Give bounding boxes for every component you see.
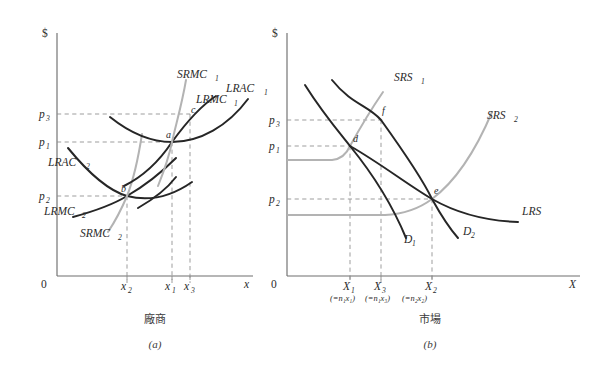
label-lrac1-sub: 1	[264, 88, 268, 97]
panel-b-xtick-X1-base: X	[342, 280, 351, 292]
panel-a-ytick-p2: p 2	[38, 190, 50, 205]
point-label-b: b	[121, 183, 126, 194]
panel-b-ytick-p3-base: p	[268, 114, 275, 127]
label-srmc1: SRMC 1	[177, 68, 219, 83]
panel-b-x-axis-label: X	[568, 278, 577, 290]
point-label-d: d	[353, 133, 359, 144]
label-srs2-sub: 2	[514, 115, 518, 124]
curve-lrac1	[110, 99, 248, 142]
panel-b-xtick-X2-paren: (=n₂x₂)	[402, 294, 427, 303]
label-d1-sub: 1	[412, 239, 416, 248]
panel-a-caption-label: (a)	[105, 338, 205, 350]
panel-b-ytick-p1: p 1	[268, 140, 280, 155]
label-srs1-sub: 1	[421, 77, 425, 86]
label-lrmc1-sub: 1	[234, 99, 238, 108]
panel-b-xtick-X1: X 1 (=n₁x₁)	[330, 280, 355, 303]
panel-a-ytick-p3: p 3	[38, 108, 50, 123]
label-lrac1: LRAC 1	[225, 82, 268, 97]
panel-b-ytick-p3-sub: 3	[275, 120, 280, 129]
label-srmc1-base: SRMC	[177, 68, 207, 80]
curve-srs2	[288, 112, 492, 215]
label-d2-sub: 2	[471, 231, 475, 240]
panel-a-group: $ 0 x p 3 p 1 p 2 x 2	[38, 27, 268, 295]
label-d2: D 2	[462, 225, 475, 240]
panel-a-xtick-x2-sub: 2	[128, 286, 132, 295]
label-lrmc1-base: LRMC	[195, 93, 227, 105]
label-d1: D 1	[403, 233, 416, 248]
panel-a-ytick-p2-base: p	[38, 190, 45, 203]
point-label-a: a	[166, 129, 171, 140]
label-lrs: LRS	[521, 205, 541, 217]
label-srs1: SRS 1	[394, 71, 425, 86]
panel-a-ytick-p1-sub: 1	[46, 142, 50, 151]
panel-a-xtick-x2: x 2	[120, 280, 132, 295]
curve-srs1	[288, 92, 383, 160]
panel-a-ytick-p3-sub: 3	[45, 114, 50, 123]
panel-b-xtick-X2-sub: 2	[433, 286, 437, 295]
panel-b-ytick-p1-base: p	[268, 140, 275, 153]
label-srs2: SRS 2	[487, 109, 518, 124]
panel-a-ytick-p2-sub: 2	[46, 196, 50, 205]
label-lrmc1: LRMC 1	[195, 93, 238, 108]
label-srs1-base: SRS	[394, 71, 413, 83]
label-lrac1-base: LRAC	[225, 82, 254, 94]
panel-b-caption-chinese: 市場	[380, 310, 480, 326]
panel-b-caption-label: (b)	[380, 338, 480, 350]
curve-lrs	[350, 146, 518, 222]
panel-a-caption-chinese: 廠商	[105, 310, 205, 326]
panel-a-x-axis-label: x	[243, 278, 250, 290]
panel-b-xtick-X2: X 2 (=n₂x₂)	[402, 280, 437, 303]
label-srs2-base: SRS	[487, 109, 506, 121]
point-label-c: c	[191, 104, 196, 115]
panel-a-origin-label: 0	[41, 278, 47, 290]
panel-a-ytick-p3-base: p	[38, 108, 45, 121]
panel-a-y-axis-label: $	[42, 27, 48, 39]
label-srmc2-base: SRMC	[80, 227, 110, 239]
panel-b-y-axis-label: $	[272, 27, 278, 39]
panel-b-xtick-X3-base: X	[373, 280, 382, 292]
label-srmc2: SRMC 2	[80, 227, 122, 242]
economics-figure-svg: $ 0 x p 3 p 1 p 2 x 2	[0, 0, 597, 365]
panel-b-xtick-X3-paren: (=n₁x₃)	[365, 294, 390, 303]
curve-aux-sr-branch	[138, 177, 176, 208]
point-label-e: e	[434, 185, 439, 196]
panel-b-ytick-p2: p 2	[268, 193, 280, 208]
panel-a-xtick-x3-sub: 3	[190, 286, 195, 295]
label-lrmc2-sub: 2	[82, 211, 86, 220]
panel-b-xtick-X2-base: X	[424, 280, 433, 292]
panel-b-ytick-p2-sub: 2	[276, 199, 280, 208]
panel-a-xtick-x2-base: x	[120, 280, 127, 292]
label-lrmc2: LRMC 2	[43, 205, 86, 220]
panel-a-xtick-x1-sub: 1	[172, 286, 176, 295]
panel-a-xtick-x1-base: x	[164, 280, 171, 292]
panel-a-xtick-x3: x 3	[183, 280, 195, 295]
panel-a-xtick-x3-base: x	[183, 280, 190, 292]
figure-root: $ 0 x p 3 p 1 p 2 x 2	[0, 0, 597, 365]
panel-b-ytick-p2-base: p	[268, 193, 275, 206]
panel-a-xtick-x1: x 1	[164, 280, 176, 295]
label-srmc2-sub: 2	[118, 233, 122, 242]
label-lrac2: LRAC 2	[47, 156, 90, 171]
label-lrmc2-base: LRMC	[43, 205, 75, 217]
point-label-f: f	[382, 105, 386, 116]
panel-b-group: $ 0 X p 3 p 1 p 2 X 1 (=n₁x₁)	[268, 27, 580, 303]
panel-a-ytick-p1-base: p	[38, 136, 45, 149]
panel-a-ytick-p1: p 1	[38, 136, 50, 151]
label-lrac2-base: LRAC	[47, 156, 76, 168]
panel-b-origin-label: 0	[271, 278, 277, 290]
panel-b-xtick-X1-paren: (=n₁x₁)	[330, 294, 355, 303]
panel-b-xtick-X3: X 3 (=n₁x₃)	[365, 280, 390, 303]
label-srmc1-sub: 1	[215, 74, 219, 83]
panel-b-ytick-p1-sub: 1	[276, 146, 280, 155]
label-lrac2-sub: 2	[86, 162, 90, 171]
panel-b-ytick-p3: p 3	[268, 114, 280, 129]
